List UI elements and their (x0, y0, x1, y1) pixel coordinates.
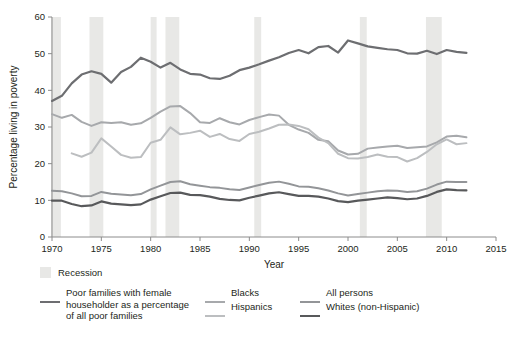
legend-label-line-1: Hispanics (231, 301, 272, 313)
legend-label: Whites (non-Hispanic) (326, 301, 419, 313)
legend-label-line-1: All persons (326, 287, 373, 299)
y-axis-title: Percentage living in poverty (8, 66, 19, 189)
x-tick-label-1985: 1985 (189, 243, 210, 254)
axis-label-group: Percentage living in povertyYear (8, 66, 285, 270)
y-tick-label-40: 40 (34, 85, 45, 96)
x-tick-label-1980: 1980 (140, 243, 161, 254)
recession-band-5 (254, 17, 261, 237)
legend-label-line-1: Poor families with female (66, 287, 189, 299)
poverty-line-chart-figure: 0102030405060197019751980198519901995200… (0, 0, 513, 339)
x-tick-label-2010: 2010 (436, 243, 457, 254)
legend-item-poor-families-with-female: Poor families with femalehouseholder as … (40, 287, 189, 322)
x-tick-label-1970: 1970 (41, 243, 62, 254)
recession-swatch (40, 267, 51, 278)
legend-swatch (40, 287, 66, 310)
legend-label-recession: Recession (58, 267, 102, 278)
legend-label: Poor families with femalehouseholder as … (66, 287, 189, 322)
y-tick-label-60: 60 (34, 11, 45, 22)
y-tick-label-20: 20 (34, 158, 45, 169)
legend-item-recession: Recession (40, 267, 102, 278)
chart-legend: RecessionPoor families with femalehouseh… (0, 264, 513, 339)
x-tick-label-1975: 1975 (91, 243, 112, 254)
x-tick-label-1990: 1990 (239, 243, 260, 254)
x-tick-label-2005: 2005 (387, 243, 408, 254)
legend-label-line-1: Blacks (231, 287, 259, 299)
y-tick-label-0: 0 (40, 231, 45, 242)
recession-band-6 (360, 17, 367, 237)
series-line-hispanics (72, 124, 467, 161)
legend-item-whites-non-hispanic: Whites (non-Hispanic) (300, 301, 419, 324)
x-tick-label-1995: 1995 (288, 243, 309, 254)
legend-label-line-2: householder as a percentage (66, 299, 189, 311)
legend-label-line-3: of all poor families (66, 310, 189, 322)
legend-swatch (205, 301, 231, 324)
legend-item-hispanics: Hispanics (205, 301, 272, 324)
legend-label: Hispanics (231, 301, 272, 313)
y-tick-label-50: 50 (34, 48, 45, 59)
recession-band-7 (426, 17, 442, 237)
y-tick-label-30: 30 (34, 121, 45, 132)
x-tick-label-2015: 2015 (485, 243, 506, 254)
recession-band-4 (165, 17, 179, 237)
legend-swatch (300, 301, 326, 324)
y-tick-label-10: 10 (34, 195, 45, 206)
legend-label-line-1: Whites (non-Hispanic) (326, 301, 419, 313)
x-tick-label-2000: 2000 (337, 243, 358, 254)
recession-band-3 (151, 17, 157, 237)
legend-label: Blacks (231, 287, 259, 299)
legend-label: All persons (326, 287, 373, 299)
